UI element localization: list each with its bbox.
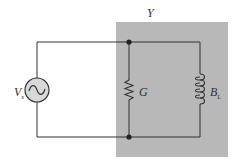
susceptance-label-subscript: L — [217, 93, 221, 101]
junction-dot-bottom — [126, 134, 131, 139]
source-label: Vs — [14, 86, 24, 101]
conductance-label: G — [139, 86, 148, 98]
susceptance-label: BL — [210, 86, 221, 101]
source-label-subscript: s — [21, 93, 24, 101]
circuit-svg — [0, 0, 240, 165]
admittance-label: Y — [147, 7, 154, 19]
circuit-diagram: Y Vs G BL — [0, 0, 240, 165]
junction-dot-top — [126, 39, 131, 44]
ac-source-icon — [25, 78, 49, 102]
